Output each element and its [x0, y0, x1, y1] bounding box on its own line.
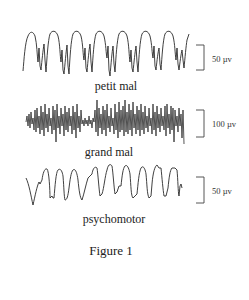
grand-mal-scale-label: 100 µv — [212, 119, 236, 129]
grand-mal-trace — [26, 100, 184, 144]
figure-caption: Figure 1 — [89, 243, 133, 259]
grand-mal-scale-bar — [196, 110, 204, 137]
psychomotor-scale-bar — [196, 177, 204, 203]
petit-mal-label: petit mal — [95, 79, 137, 94]
psychomotor-label: psychomotor — [83, 212, 146, 227]
petit-mal-trace — [23, 31, 189, 76]
eeg-figure: 50 µv petit mal 100 µv grand mal 50 µv p… — [0, 0, 249, 300]
petit-mal-scale-label: 50 µv — [212, 54, 232, 64]
petit-mal-scale-bar — [196, 45, 204, 70]
psychomotor-scale-label: 50 µv — [212, 186, 232, 196]
psychomotor-trace — [26, 165, 182, 205]
grand-mal-label: grand mal — [85, 145, 133, 160]
